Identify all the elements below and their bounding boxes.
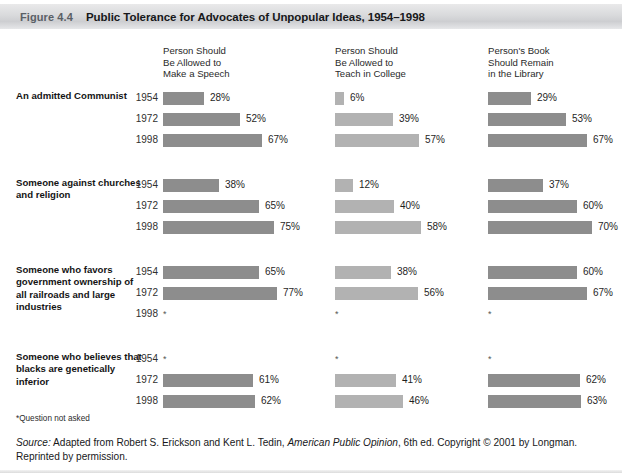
source-italic-title: American Public Opinion bbox=[287, 437, 398, 448]
chart-row: 197277%56%67% bbox=[0, 285, 622, 302]
bar-value-label: 58% bbox=[427, 221, 447, 232]
bar-value-label: 63% bbox=[587, 395, 607, 406]
source-note: Source: Adapted from Robert S. Erickson … bbox=[16, 436, 610, 464]
bar-value-label: 65% bbox=[265, 200, 285, 211]
bar-value-label: 29% bbox=[537, 92, 557, 103]
bar-value-label: 37% bbox=[549, 179, 569, 190]
chart-row: 1998*** bbox=[0, 306, 622, 323]
bar bbox=[488, 221, 592, 234]
bar-value-label: 57% bbox=[425, 134, 445, 145]
bar bbox=[335, 395, 403, 408]
bar bbox=[335, 200, 394, 213]
chart-row: 195438%12%37% bbox=[0, 177, 622, 194]
bar-value-label: 61% bbox=[259, 374, 279, 385]
chart-row: 199862%46%63% bbox=[0, 393, 622, 410]
bar bbox=[163, 287, 277, 300]
footnote-question-not-asked: *Question not asked bbox=[16, 414, 90, 423]
bar bbox=[335, 266, 391, 279]
not-asked-marker: * bbox=[163, 309, 167, 319]
bar bbox=[163, 200, 259, 213]
bar bbox=[163, 374, 253, 387]
bar-value-label: 67% bbox=[593, 287, 613, 298]
bar bbox=[335, 287, 418, 300]
not-asked-marker: * bbox=[488, 309, 492, 319]
not-asked-marker: * bbox=[488, 354, 492, 364]
bar-value-label: 65% bbox=[265, 266, 285, 277]
row-year-label: 1998 bbox=[108, 395, 158, 406]
bar-value-label: 40% bbox=[400, 200, 420, 211]
chart-row: 197252%39%53% bbox=[0, 111, 622, 128]
bar bbox=[488, 113, 566, 126]
chart-row: 197265%40%60% bbox=[0, 198, 622, 215]
bar bbox=[163, 179, 219, 192]
bar bbox=[488, 200, 577, 213]
column-header-library: Person's Book Should Remain in the Libra… bbox=[488, 45, 554, 80]
bar-value-label: 60% bbox=[583, 200, 603, 211]
row-year-label: 1998 bbox=[108, 221, 158, 232]
bar bbox=[488, 92, 531, 105]
figure-title-bar: Figure 4.4 Public Tolerance for Advocate… bbox=[0, 4, 622, 29]
bar-value-label: 38% bbox=[225, 179, 245, 190]
bar bbox=[163, 221, 274, 234]
bar bbox=[163, 134, 262, 147]
bar bbox=[488, 266, 577, 279]
bar-value-label: 56% bbox=[424, 287, 444, 298]
bar-value-label: 77% bbox=[283, 287, 303, 298]
source-text-1: Adapted from Robert S. Erickson and Kent… bbox=[51, 437, 288, 448]
not-asked-marker: * bbox=[335, 354, 339, 364]
chart-row: 199875%58%70% bbox=[0, 219, 622, 236]
bar bbox=[335, 221, 421, 234]
bar-value-label: 28% bbox=[210, 92, 230, 103]
row-year-label: 1972 bbox=[108, 287, 158, 298]
bar-value-label: 75% bbox=[280, 221, 300, 232]
bar bbox=[488, 287, 587, 300]
chart-row: 1954*** bbox=[0, 351, 622, 368]
column-header-teach: Person Should Be Allowed to Teach in Col… bbox=[335, 45, 406, 80]
bar bbox=[335, 113, 393, 126]
column-header-speech: Person Should Be Allowed to Make a Speec… bbox=[163, 45, 230, 80]
bar bbox=[488, 395, 581, 408]
bar bbox=[163, 92, 204, 105]
bar-value-label: 67% bbox=[593, 134, 613, 145]
bar bbox=[163, 395, 255, 408]
bar-value-label: 60% bbox=[583, 266, 603, 277]
not-asked-marker: * bbox=[163, 354, 167, 364]
bar bbox=[335, 374, 396, 387]
figure-title: Public Tolerance for Advocates of Unpopu… bbox=[86, 11, 425, 23]
bar bbox=[163, 266, 259, 279]
bar-value-label: 46% bbox=[409, 395, 429, 406]
bar-value-label: 6% bbox=[350, 92, 364, 103]
row-year-label: 1954 bbox=[108, 353, 158, 364]
row-year-label: 1972 bbox=[108, 200, 158, 211]
bar-value-label: 67% bbox=[268, 134, 288, 145]
bar-value-label: 70% bbox=[598, 221, 618, 232]
bar-value-label: 62% bbox=[586, 374, 606, 385]
bar bbox=[488, 179, 543, 192]
row-year-label: 1954 bbox=[108, 266, 158, 277]
chart-row: 197261%41%62% bbox=[0, 372, 622, 389]
source-label: Source: bbox=[16, 437, 51, 448]
bar bbox=[335, 134, 419, 147]
row-year-label: 1972 bbox=[108, 113, 158, 124]
bar-value-label: 39% bbox=[399, 113, 419, 124]
not-asked-marker: * bbox=[335, 309, 339, 319]
chart-row: 195465%38%60% bbox=[0, 264, 622, 281]
chart-row: 199867%57%67% bbox=[0, 132, 622, 149]
bar-value-label: 62% bbox=[261, 395, 281, 406]
bar-value-label: 52% bbox=[246, 113, 266, 124]
bar bbox=[335, 92, 344, 105]
bar-value-label: 38% bbox=[397, 266, 417, 277]
figure-number: Figure 4.4 bbox=[20, 11, 73, 23]
bar-value-label: 53% bbox=[572, 113, 592, 124]
bar-value-label: 41% bbox=[402, 374, 422, 385]
row-year-label: 1972 bbox=[108, 374, 158, 385]
bar bbox=[488, 374, 580, 387]
row-year-label: 1998 bbox=[108, 134, 158, 145]
bar bbox=[335, 179, 353, 192]
row-year-label: 1954 bbox=[108, 179, 158, 190]
chart-row: 195428%6%29% bbox=[0, 90, 622, 107]
bar-value-label: 12% bbox=[359, 179, 379, 190]
bar bbox=[488, 134, 587, 147]
row-year-label: 1954 bbox=[108, 92, 158, 103]
row-year-label: 1998 bbox=[108, 308, 158, 319]
